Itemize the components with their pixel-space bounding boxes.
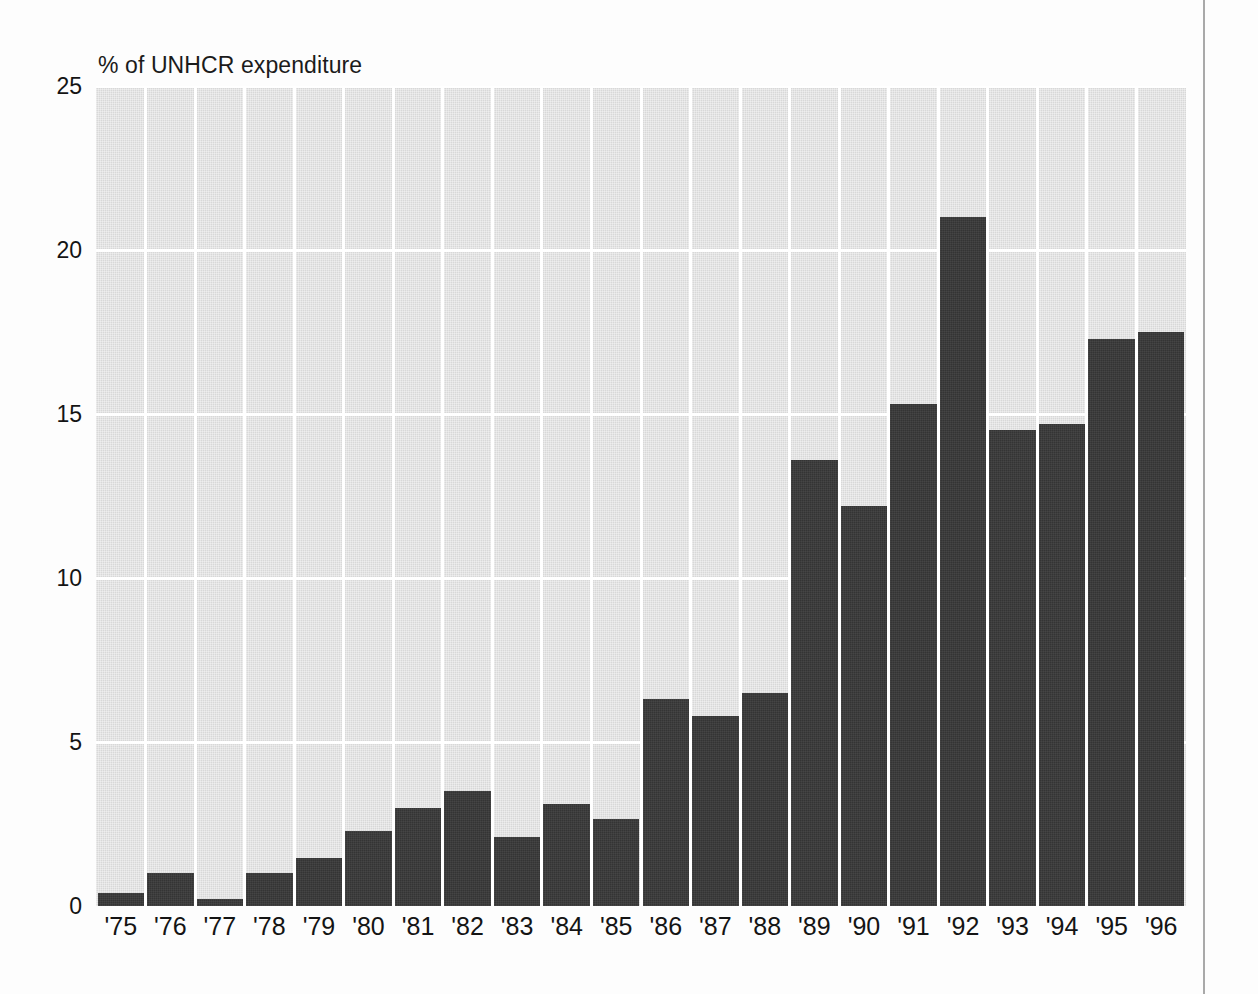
x-axis-label-82: '82 <box>443 914 493 939</box>
bar-79 <box>296 858 343 906</box>
bar-88 <box>742 693 789 906</box>
page-divider-rule <box>1203 0 1205 994</box>
bar-80 <box>345 831 392 906</box>
x-axis-label-79: '79 <box>294 914 344 939</box>
bar-83 <box>494 837 541 906</box>
chart-title: % of UNHCR expenditure <box>98 52 362 79</box>
y-axis-label-25: 25 <box>36 75 82 98</box>
bar-series <box>96 86 1186 906</box>
bar-81 <box>395 808 442 906</box>
x-axis-label-80: '80 <box>344 914 394 939</box>
bar-93 <box>989 430 1036 906</box>
bar-82 <box>444 791 491 906</box>
x-axis-label-89: '89 <box>790 914 840 939</box>
x-axis-label-87: '87 <box>691 914 741 939</box>
bar-chart-figure: % of UNHCR expenditure 0510152025 '75'76… <box>0 0 1203 994</box>
bar-75 <box>98 893 145 906</box>
x-axis-label-95: '95 <box>1087 914 1137 939</box>
x-axis-label-94: '94 <box>1037 914 1087 939</box>
x-axis-label-84: '84 <box>542 914 592 939</box>
bar-77 <box>197 899 244 906</box>
x-axis-label-85: '85 <box>591 914 641 939</box>
bar-86 <box>643 699 690 906</box>
x-axis-label-96: '96 <box>1136 914 1186 939</box>
x-axis-label-76: '76 <box>146 914 196 939</box>
y-axis-label-20: 20 <box>36 239 82 262</box>
x-axis-label-88: '88 <box>740 914 790 939</box>
x-axis-label-93: '93 <box>988 914 1038 939</box>
plot-area <box>96 86 1186 906</box>
bar-94 <box>1039 424 1086 906</box>
bar-76 <box>147 873 194 906</box>
bar-89 <box>791 460 838 906</box>
y-axis: 0510152025 <box>28 86 82 906</box>
x-axis-label-78: '78 <box>245 914 295 939</box>
y-axis-label-0: 0 <box>36 895 82 918</box>
y-axis-label-15: 15 <box>36 403 82 426</box>
bar-91 <box>890 404 937 906</box>
x-axis-label-83: '83 <box>492 914 542 939</box>
y-axis-label-5: 5 <box>36 731 82 754</box>
x-axis-label-86: '86 <box>641 914 691 939</box>
bar-85 <box>593 819 640 906</box>
bar-95 <box>1088 339 1135 906</box>
x-axis-label-75: '75 <box>96 914 146 939</box>
x-axis: '75'76'77'78'79'80'81'82'83'84'85'86'87'… <box>96 908 1186 952</box>
bar-87 <box>692 716 739 906</box>
page-root: % of UNHCR expenditure 0510152025 '75'76… <box>0 0 1258 994</box>
x-axis-label-81: '81 <box>393 914 443 939</box>
bar-90 <box>841 506 888 906</box>
bar-92 <box>940 217 987 906</box>
x-axis-label-91: '91 <box>889 914 939 939</box>
bar-84 <box>543 804 590 906</box>
bar-78 <box>246 873 293 906</box>
x-axis-label-92: '92 <box>938 914 988 939</box>
y-axis-label-10: 10 <box>36 567 82 590</box>
x-axis-label-90: '90 <box>839 914 889 939</box>
bar-96 <box>1138 332 1185 906</box>
x-axis-label-77: '77 <box>195 914 245 939</box>
